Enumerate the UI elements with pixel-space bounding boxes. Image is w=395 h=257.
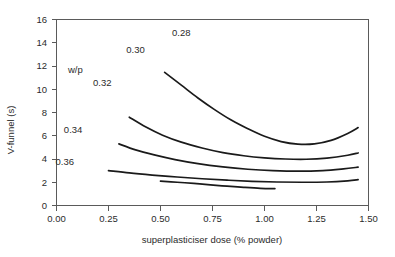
y-tick-label-16: 16	[36, 14, 47, 25]
wp-annotation: w/p	[67, 64, 83, 75]
x-tick-label-0.00: 0.00	[47, 213, 66, 224]
x-axis-title: superplasticiser dose (% powder)	[142, 234, 282, 245]
series-label-0.28: 0.28	[172, 27, 191, 38]
y-tick-label-10: 10	[36, 84, 47, 95]
series-label-0.36: 0.36	[56, 156, 75, 167]
x-tick-label-1.00: 1.00	[255, 213, 274, 224]
x-tick-label-1.50: 1.50	[359, 213, 378, 224]
curve-series-0.32	[119, 144, 358, 171]
chart-figure: 0 2 4 6 8 10 12 14 16 0.00 0.25 0.50 0.7…	[0, 0, 395, 257]
y-tick-label-14: 14	[36, 37, 47, 48]
series-label-0.30: 0.30	[126, 44, 145, 55]
plot-area-border	[57, 20, 369, 206]
x-tick-label-0.75: 0.75	[203, 213, 222, 224]
curve-series-0.34	[109, 171, 359, 183]
y-axis-ticks	[52, 20, 57, 206]
y-axis-tick-labels: 0 2 4 6 8 10 12 14 16	[36, 14, 47, 211]
y-tick-label-0: 0	[42, 200, 47, 211]
y-tick-label-6: 6	[42, 130, 47, 141]
x-tick-label-0.50: 0.50	[151, 213, 170, 224]
y-tick-label-8: 8	[42, 107, 47, 118]
y-tick-label-4: 4	[42, 153, 47, 164]
y-tick-label-2: 2	[42, 177, 47, 188]
curve-series-0.28	[165, 72, 358, 144]
y-axis-title: V-funnel (s)	[5, 106, 16, 155]
plot-frame	[57, 20, 369, 206]
v-funnel-line-chart: 0 2 4 6 8 10 12 14 16 0.00 0.25 0.50 0.7…	[0, 0, 395, 257]
x-axis-ticks	[57, 206, 369, 211]
x-axis-tick-labels: 0.00 0.25 0.50 0.75 1.00 1.25 1.50	[47, 213, 378, 224]
curve-series-0.30	[129, 117, 358, 159]
x-tick-label-0.25: 0.25	[99, 213, 118, 224]
data-curves	[109, 72, 359, 188]
y-tick-label-12: 12	[36, 60, 47, 71]
x-tick-label-1.25: 1.25	[307, 213, 326, 224]
series-label-0.32: 0.32	[93, 77, 112, 88]
series-label-0.34: 0.34	[64, 124, 83, 135]
